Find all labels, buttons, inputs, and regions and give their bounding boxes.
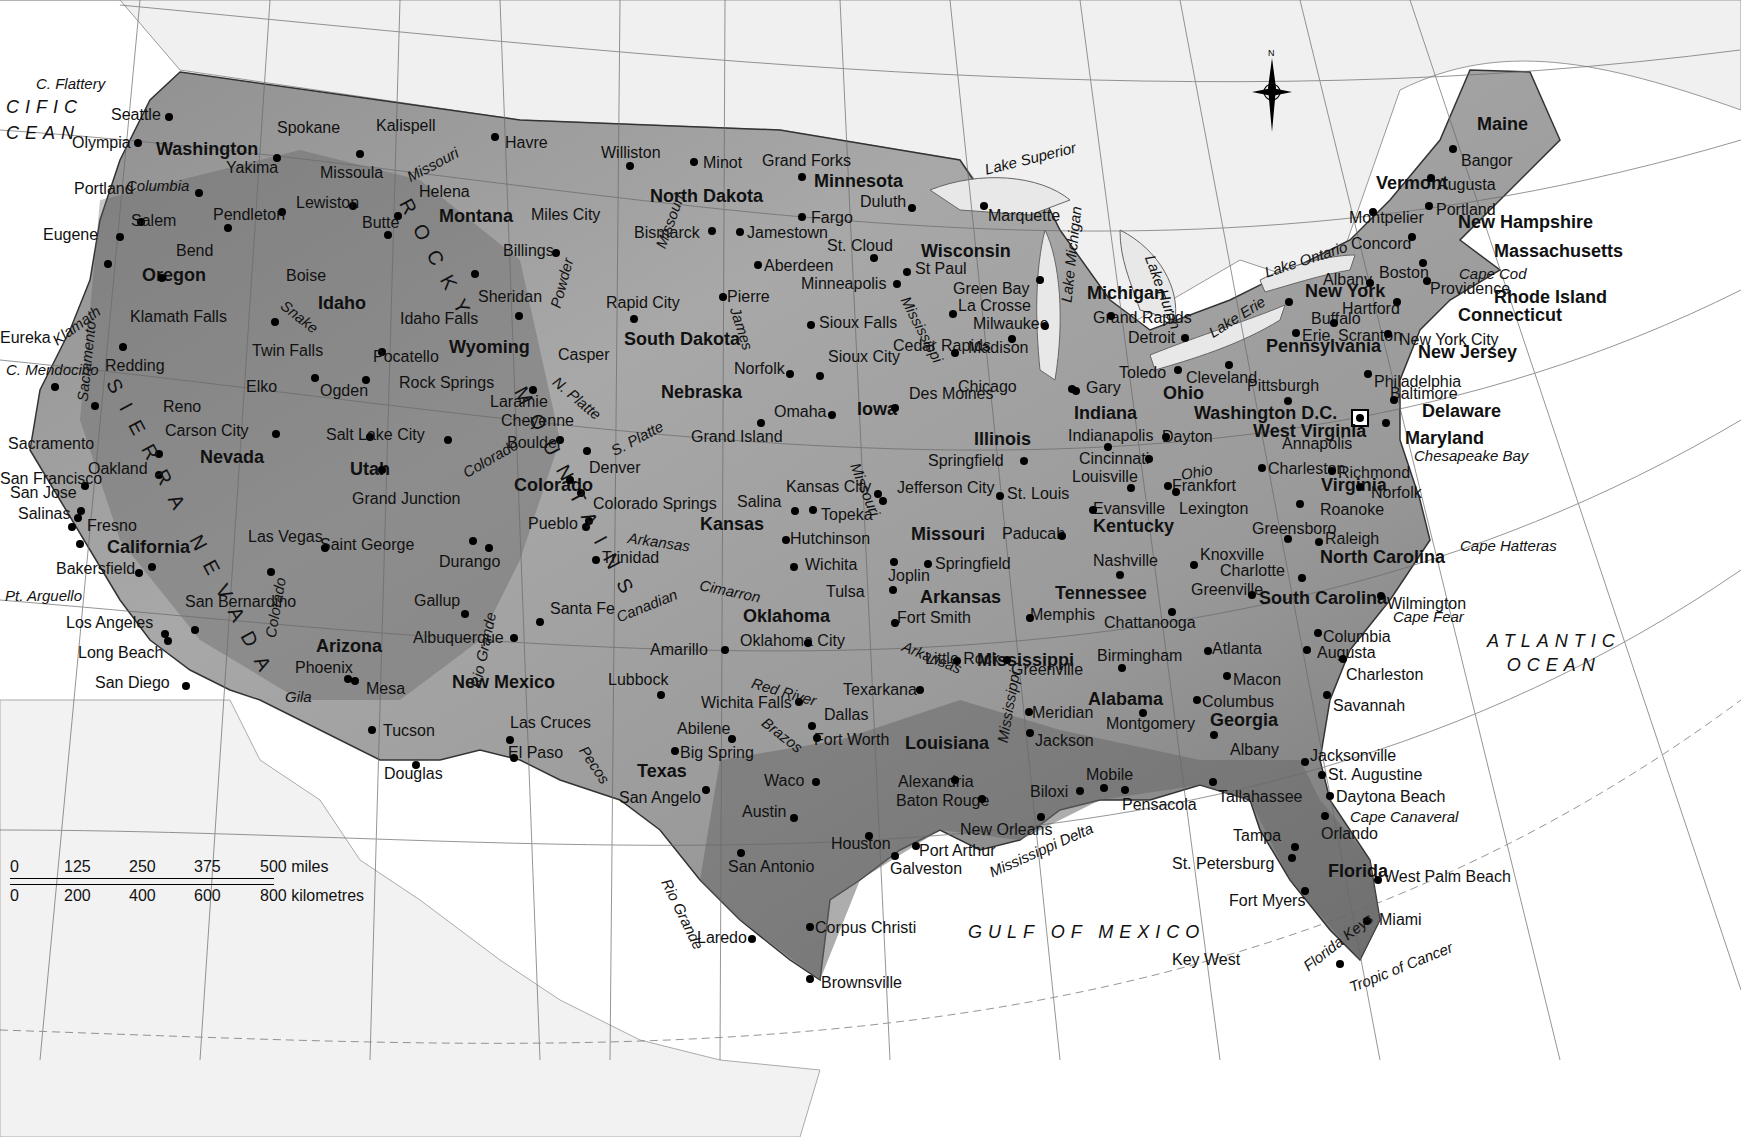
city-label: Portland xyxy=(74,181,134,197)
city-dot-icon xyxy=(1377,592,1385,600)
city-label: Tulsa xyxy=(826,584,865,600)
city-label: Colorado Springs xyxy=(593,496,717,512)
city-dot-icon xyxy=(812,778,820,786)
city-label: Ogden xyxy=(320,383,368,399)
city-label: Springfield xyxy=(935,556,1011,572)
scale-miles-ticks: 0 125 250 375 500 miles xyxy=(10,858,370,878)
city-dot-icon xyxy=(806,975,814,983)
city-label: San Diego xyxy=(95,675,170,691)
city-label: Jefferson City xyxy=(897,480,995,496)
compass-rose: N xyxy=(1250,48,1294,132)
city-label: Grand Island xyxy=(691,429,783,445)
city-dot-icon xyxy=(506,736,514,744)
us-physical-map: CIFIC CEAN ATLANTIC OCEAN GULF OF MEXICO… xyxy=(0,0,1741,1137)
city-dot-icon xyxy=(134,139,142,147)
city-dot-icon xyxy=(515,312,523,320)
city-label: Biloxi xyxy=(1030,784,1068,800)
city-label: Lexington xyxy=(1179,501,1248,517)
city-label: Springfield xyxy=(928,453,1004,469)
gulf-label: GULF OF MEXICO xyxy=(968,923,1205,941)
city-dot-icon xyxy=(807,321,815,329)
city-dot-icon xyxy=(1127,484,1135,492)
state-label: Arizona xyxy=(316,637,382,655)
city-label: Dallas xyxy=(824,707,868,723)
city-label: Cape Cod xyxy=(1459,266,1527,281)
feature-label: Gila xyxy=(285,689,312,704)
city-label: Evansville xyxy=(1093,501,1165,517)
scale-km-ticks: 0 200 400 600 800 kilometres xyxy=(10,887,390,907)
city-label: Daytona Beach xyxy=(1336,789,1445,805)
city-label: Mobile xyxy=(1086,767,1133,783)
city-dot-icon xyxy=(736,228,744,236)
city-label: Miami xyxy=(1379,912,1422,928)
city-dot-icon xyxy=(351,677,359,685)
city-dot-icon xyxy=(1258,464,1266,472)
city-dot-icon xyxy=(1225,361,1233,369)
city-dot-icon xyxy=(1323,691,1331,699)
city-dot-icon xyxy=(1003,656,1011,664)
city-label: Montpelier xyxy=(1349,210,1424,226)
city-label: Jackson xyxy=(1035,733,1094,749)
city-dot-icon xyxy=(182,682,190,690)
scale-tick: 200 xyxy=(64,887,91,905)
city-dot-icon xyxy=(116,233,124,241)
city-label: Joplin xyxy=(888,568,930,584)
state-label: Kentucky xyxy=(1093,517,1174,535)
city-label: Erie xyxy=(1302,328,1330,344)
city-dot-icon xyxy=(949,310,957,318)
city-label: Atlanta xyxy=(1212,641,1262,657)
city-dot-icon xyxy=(804,639,812,647)
city-dot-icon xyxy=(378,466,386,474)
city-dot-icon xyxy=(1292,329,1300,337)
city-label: Greensboro xyxy=(1252,521,1337,537)
city-label: Savannah xyxy=(1333,698,1405,714)
city-label: Key West xyxy=(1172,952,1240,968)
city-dot-icon xyxy=(1314,629,1322,637)
city-dot-icon xyxy=(786,370,794,378)
city-label: Fort Worth xyxy=(814,732,889,748)
city-label: Pendleton xyxy=(213,207,285,223)
city-dot-icon xyxy=(893,280,901,288)
city-dot-icon xyxy=(1020,457,1028,465)
city-label: Chattanooga xyxy=(1104,615,1196,631)
city-dot-icon xyxy=(1356,483,1364,491)
city-dot-icon xyxy=(1301,758,1309,766)
scale-tick: 250 xyxy=(129,858,156,876)
city-label: Charlotte xyxy=(1220,563,1285,579)
state-label: Wisconsin xyxy=(921,242,1011,260)
city-label: Lubbock xyxy=(608,672,669,688)
city-dot-icon xyxy=(806,923,814,931)
state-label: Washington xyxy=(156,140,258,158)
city-label: Omaha xyxy=(774,404,826,420)
state-label: Wyoming xyxy=(449,338,530,356)
city-label: Memphis xyxy=(1030,607,1095,623)
city-label: Havre xyxy=(505,135,548,151)
city-label: Salina xyxy=(737,494,781,510)
city-dot-icon xyxy=(808,722,816,730)
city-label: Boston xyxy=(1379,265,1429,281)
city-dot-icon xyxy=(702,786,710,794)
city-label: Billings xyxy=(503,243,554,259)
city-dot-icon xyxy=(1298,574,1306,582)
city-dot-icon xyxy=(368,726,376,734)
compass-icon xyxy=(1250,58,1294,142)
city-dot-icon xyxy=(671,747,679,755)
city-dot-icon xyxy=(191,626,199,634)
scale-tick: 0 xyxy=(10,887,19,905)
city-label: San Jose xyxy=(10,485,77,501)
state-label: Connecticut xyxy=(1458,306,1562,324)
city-dot-icon xyxy=(491,133,499,141)
city-dot-icon xyxy=(1369,208,1377,216)
city-label: Rock Springs xyxy=(399,375,494,391)
city-dot-icon xyxy=(311,374,319,382)
city-dot-icon xyxy=(891,619,899,627)
city-dot-icon xyxy=(690,158,698,166)
city-dot-icon xyxy=(1008,335,1016,343)
city-label: Missoula xyxy=(320,165,383,181)
state-label: Alabama xyxy=(1088,690,1163,708)
city-label: Charleston xyxy=(1346,667,1423,683)
city-label: Las Vegas xyxy=(248,529,323,545)
capital-label: Washington D.C. xyxy=(1194,404,1337,422)
city-label: Pocatello xyxy=(373,349,439,365)
city-dot-icon xyxy=(68,523,76,531)
